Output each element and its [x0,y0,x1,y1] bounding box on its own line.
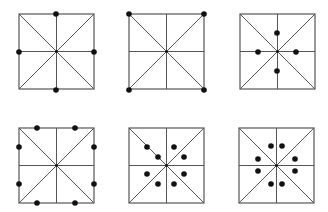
dot [171,181,177,187]
dot [72,125,78,131]
dot [72,200,78,206]
dot [144,144,150,150]
dot [274,68,280,74]
center-point [55,50,58,53]
dot [91,181,97,187]
dot [279,143,285,149]
dot [201,87,207,93]
square-figure-3 [240,14,315,89]
center-point [55,164,58,167]
dot [181,171,187,177]
dot [53,11,59,17]
dot [155,154,161,160]
dot [144,171,150,177]
dot [34,200,40,206]
dot [274,30,280,36]
dot [255,49,261,55]
dot [155,181,161,187]
dot [91,144,97,150]
dot [53,87,59,93]
square-figure-2 [126,11,207,93]
dot [255,168,261,174]
dot [201,11,207,17]
dot [255,156,261,162]
square-figure-1 [16,11,97,93]
dot [181,154,187,160]
diagram-canvas [0,0,328,212]
dot [34,125,40,131]
square-figure-6 [239,128,314,203]
center-point [276,50,279,53]
dot [126,11,132,17]
dot [126,87,132,93]
dot [293,49,299,55]
dot [16,49,22,55]
center-point [165,164,168,167]
dot [292,156,298,162]
square-figure-5 [129,128,204,203]
dot [16,181,22,187]
center-point [165,50,168,53]
dot [91,49,97,55]
dot [292,168,298,174]
square-figure-4 [16,125,97,206]
dot [171,144,177,150]
center-point [275,164,278,167]
dot [16,144,22,150]
dot [279,181,285,187]
dot [268,181,274,187]
dot [268,143,274,149]
